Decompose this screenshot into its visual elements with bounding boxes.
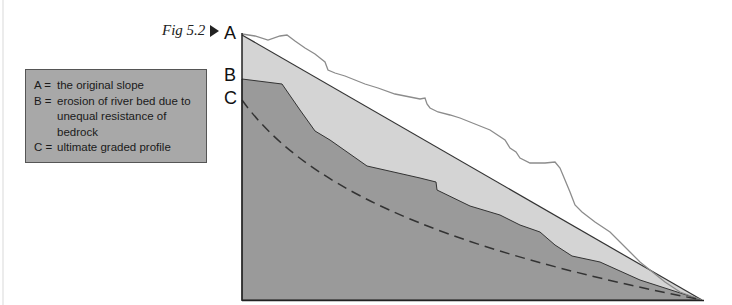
river-profile-diagram [0, 0, 732, 305]
